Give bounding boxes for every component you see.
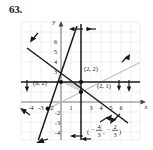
point-label-neg-fractions: ( − 4 3 , − 2 3 ) <box>87 123 121 139</box>
point-label-2-2: (2, 2) <box>84 65 98 73</box>
x-axis-label: x <box>144 103 148 110</box>
y-tick-label-3: 3 <box>54 68 57 75</box>
x-tick-label--3: -3 <box>38 104 43 111</box>
fraction-denominator-1: 3 <box>97 131 100 138</box>
figure-container: 63. <box>0 0 153 150</box>
y-axis-label: y <box>52 18 56 25</box>
coordinate-plane-graph: y x -4 -3 -2 1 3 4 5 6 6 5 4 3 -2 -3 -4 … <box>0 0 153 150</box>
arrow-bottom-steep-line <box>36 138 48 143</box>
arrow-bottom-left-fraction <box>81 137 91 141</box>
fraction-numerator-1: 4 <box>97 123 100 130</box>
x-tick-label-4: 4 <box>99 104 102 111</box>
vertex-dot-2-2 <box>79 80 83 84</box>
fraction-sign-1: − <box>92 126 96 133</box>
x-tick-label-1: 1 <box>69 104 72 111</box>
point-label-0-2: (0, 2) <box>33 79 47 87</box>
x-tick-label-6: 6 <box>119 104 122 111</box>
vertex-dot-0-2 <box>59 80 63 84</box>
x-tick-label--2: -2 <box>48 104 53 111</box>
arrow-bottom-right-fraction <box>100 115 112 123</box>
fraction-paren-close: ) <box>119 128 121 136</box>
x-tick-label--4: -4 <box>28 104 33 111</box>
fraction-denominator-2: 3 <box>113 131 116 138</box>
x-tick-label-5: 5 <box>109 104 112 111</box>
y-tick-label--2: -2 <box>55 109 60 116</box>
y-tick-label-5: 5 <box>54 48 57 55</box>
arrow-right-shallow-line <box>122 54 130 62</box>
y-tick-label-6: 6 <box>54 38 57 45</box>
x-tick-label-3: 3 <box>89 104 92 111</box>
vertex-dot-2-1 <box>79 90 83 94</box>
fraction-paren-open: ( <box>87 128 89 136</box>
y-tick-label--4: -4 <box>55 129 60 136</box>
fraction-comma: , <box>103 128 105 135</box>
point-label-2-1: (2, 1) <box>97 82 111 90</box>
y-tick-label--3: -3 <box>55 119 60 126</box>
fraction-numerator-2: 2 <box>113 123 116 130</box>
fraction-sign-2: − <box>107 126 111 133</box>
y-tick-label-4: 4 <box>54 58 57 65</box>
